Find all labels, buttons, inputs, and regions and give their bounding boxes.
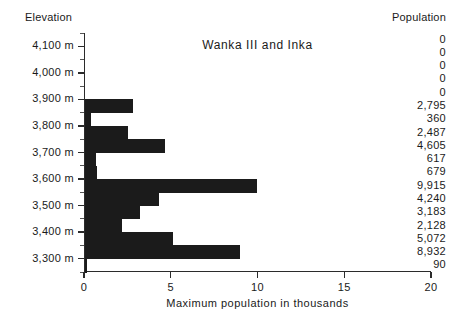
bar <box>85 166 97 180</box>
y-axis-label: 3,700 m <box>32 146 74 158</box>
y-axis-tick <box>78 231 84 232</box>
bar <box>85 99 133 113</box>
bar <box>85 113 91 127</box>
y-axis-label: 3,600 m <box>32 172 74 184</box>
bar <box>85 245 240 259</box>
population-value: 679 <box>427 165 446 177</box>
y-axis-label: 4,100 m <box>32 39 74 51</box>
population-value: 2,128 <box>417 219 446 231</box>
population-value: 8,932 <box>417 245 446 257</box>
y-axis-tick <box>78 205 84 206</box>
bar <box>85 139 165 153</box>
x-axis-tick <box>344 272 345 278</box>
y-axis-label: 3,900 m <box>32 92 74 104</box>
x-axis-label: 15 <box>338 281 351 293</box>
population-value: 617 <box>427 152 446 164</box>
elevation-column-header: Elevation <box>25 11 72 23</box>
x-axis-label: 20 <box>425 281 438 293</box>
y-axis-label: 4,000 m <box>32 66 74 78</box>
y-axis-minor-tick <box>80 86 84 87</box>
population-value: 2,487 <box>417 126 446 138</box>
population-value: 0 <box>440 59 446 71</box>
chart-title: Wanka III and Inka <box>84 38 431 52</box>
bar <box>85 259 87 273</box>
population-value: 0 <box>440 33 446 45</box>
population-value: 4,240 <box>417 192 446 204</box>
population-value: 4,605 <box>417 139 446 151</box>
y-axis-minor-tick <box>80 139 84 140</box>
x-axis-tick <box>430 272 431 278</box>
x-axis-tick <box>83 272 84 278</box>
y-axis-label: 3,800 m <box>32 119 74 131</box>
population-value: 0 <box>440 72 446 84</box>
bar <box>85 232 173 246</box>
y-axis-minor-tick <box>80 112 84 113</box>
y-axis-tick <box>78 152 84 153</box>
y-axis-tick <box>78 46 84 47</box>
y-axis-label: 3,300 m <box>32 252 74 264</box>
y-axis-minor-tick <box>80 218 84 219</box>
x-axis-title: Maximum population in thousands <box>84 297 431 309</box>
population-value: 90 <box>433 258 446 270</box>
population-column-header: Population <box>392 11 446 23</box>
population-value: 9,915 <box>417 179 446 191</box>
population-value: 2,795 <box>417 99 446 111</box>
plot-area <box>84 33 431 272</box>
x-axis-label: 0 <box>81 281 87 293</box>
bar <box>85 179 257 193</box>
population-value: 0 <box>440 86 446 98</box>
x-axis-tick <box>257 272 258 278</box>
bar <box>85 153 96 167</box>
population-value: 0 <box>440 46 446 58</box>
population-elevation-chart: Elevation Population Wanka III and Inka … <box>0 0 460 319</box>
bar <box>85 219 122 233</box>
y-axis-label: 3,500 m <box>32 199 74 211</box>
y-axis-minor-tick <box>80 59 84 60</box>
y-axis-tick <box>78 125 84 126</box>
y-axis-minor-tick <box>80 245 84 246</box>
y-axis-tick <box>78 178 84 179</box>
y-axis-tick <box>78 258 84 259</box>
population-value: 3,183 <box>417 205 446 217</box>
y-axis-minor-tick <box>80 165 84 166</box>
y-axis-tick <box>78 99 84 100</box>
y-axis-label: 3,400 m <box>32 225 74 237</box>
population-value: 360 <box>427 112 446 124</box>
x-axis-tick <box>170 272 171 278</box>
x-axis-label: 5 <box>168 281 174 293</box>
bar <box>85 192 159 206</box>
y-axis-tick <box>78 72 84 73</box>
bar <box>85 126 128 140</box>
x-axis-label: 10 <box>251 281 264 293</box>
bar <box>85 206 140 220</box>
y-axis-minor-tick <box>80 33 84 34</box>
y-axis-minor-tick <box>80 192 84 193</box>
population-value: 5,072 <box>417 232 446 244</box>
